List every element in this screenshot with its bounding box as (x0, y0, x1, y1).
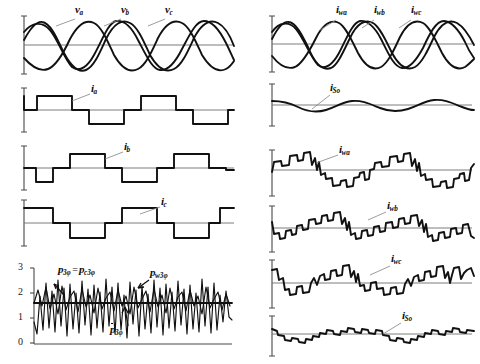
label-ib: ib (124, 141, 131, 152)
leader-iso-upper (312, 95, 330, 109)
label-pw3phi: pw3φ (150, 267, 168, 278)
iso-upper-plot (268, 82, 474, 128)
leader-iwa (320, 20, 336, 30)
label-vb: vb (121, 4, 129, 15)
iwa-plot (268, 148, 474, 198)
label-iwa-top: iwa (336, 4, 347, 15)
label-iso-lower: iSo (402, 310, 413, 321)
ytick-0: 0 (18, 336, 23, 347)
iso-lower-plot (268, 314, 474, 358)
power-chart-plot (12, 262, 236, 354)
label-pbar3phi: p3φ (110, 324, 123, 335)
waveform-figure: va vb vc ia (0, 0, 480, 364)
ytick-2: 2 (18, 286, 23, 297)
leader-iso-lower (383, 323, 401, 334)
iwc-plot (268, 258, 474, 310)
label-iwc-top: iwc (411, 4, 422, 15)
panel-wye-currents: iwa iwb iwc (268, 14, 474, 74)
trace-iso-upper (272, 100, 474, 112)
leader-iwa (316, 155, 338, 163)
panel-current-ib: ib (20, 144, 236, 192)
trace-iwb (272, 22, 474, 69)
trace-vb (24, 22, 234, 71)
leader-iwc (370, 266, 390, 275)
overbar (111, 323, 114, 324)
current-ic-plot (20, 198, 236, 248)
y-axis (269, 260, 275, 308)
label-ic: ic (161, 196, 167, 207)
panel-iwc: iwc (268, 258, 474, 310)
panel-iso-upper: iSo (268, 82, 474, 128)
trace-iso-lower (272, 328, 474, 343)
leader-vc (148, 19, 165, 26)
panel-source-voltages: va vb vc (20, 14, 236, 76)
leader-ia (72, 94, 90, 101)
label-iso-upper: iSo (330, 82, 341, 93)
trace-iwc (272, 265, 474, 295)
ytick-3: 3 (18, 261, 23, 272)
leader-ib (105, 152, 123, 159)
leader-iwb (368, 212, 386, 220)
leader-va (56, 19, 75, 26)
panel-power-chart: 3 2 1 0 p3φ=pc3φ pw3φ p3φ (12, 262, 236, 354)
label-iwc: iwc (391, 253, 402, 264)
panel-iwa: iwa (268, 148, 474, 198)
panel-iso-lower: iSo (268, 314, 474, 358)
panel-current-ic: ic (20, 198, 236, 248)
iwb-plot (268, 204, 474, 254)
ytick-1: 1 (18, 311, 23, 322)
label-iwb-top: iwb (374, 4, 385, 15)
trace-iwb (272, 212, 474, 241)
label-vc: vc (165, 4, 173, 15)
y-axis (269, 150, 275, 196)
source-voltages-plot (20, 14, 236, 76)
panel-iwb: iwb (268, 204, 474, 254)
current-ia-plot (20, 86, 236, 134)
label-ia: ia (91, 83, 98, 94)
y-axis (269, 316, 275, 356)
panel-current-ia: ia (20, 86, 236, 134)
label-p3phi-equals-pc3phi: p3φ=pc3φ (58, 264, 95, 275)
label-iwb: iwb (387, 200, 398, 211)
label-va: va (75, 4, 83, 15)
label-iwa: iwa (339, 144, 350, 155)
wye-currents-plot (268, 14, 474, 74)
